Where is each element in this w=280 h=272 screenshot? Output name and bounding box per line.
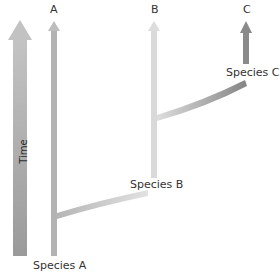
species-b-label: Species B [130, 179, 183, 190]
branch-a-to-b [57, 190, 148, 219]
time-axis-label: Time [18, 137, 29, 167]
lineage-c-label: C [243, 4, 251, 15]
species-c-label: Species C [226, 67, 280, 78]
lineage-a-label: A [50, 4, 58, 15]
branch-b-to-c [157, 80, 247, 121]
lineage-c-arrow [240, 21, 252, 64]
lineage-a-arrow [48, 21, 60, 256]
lineage-b-label: B [151, 4, 159, 15]
species-a-label: Species A [33, 260, 86, 271]
lineage-b-arrow [148, 21, 160, 178]
